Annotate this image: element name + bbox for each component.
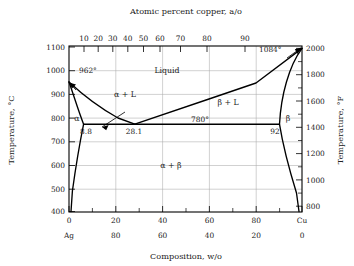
bottom-cu-tick-40: 40 [158,216,168,225]
phase-diagram-figure: Atomic percent copper, a/o Composition, … [0,0,354,266]
top-tick-70: 70 [176,34,186,43]
label-alpha-max-composition: 8.8 [80,127,92,136]
left-tick-700: 700 [51,137,65,146]
label-beta-max-composition: 92 [270,127,279,136]
left-tick-900: 900 [51,90,65,99]
bottom-cu-tick-60: 60 [205,216,215,225]
left-axis-title: Temperature, °C [6,95,16,164]
label-eutectic-composition: 28.1 [126,127,142,136]
bottom-ag-tick-20: 20 [251,231,261,240]
left-tick-1100: 1100 [46,43,65,52]
right-tick-1000: 1000 [306,176,325,185]
top-tick-10: 10 [79,34,89,43]
top-tick-50: 50 [139,34,149,43]
left-tick-500: 500 [51,185,65,194]
bottom-cu-tick-cu: Cu [297,216,308,225]
right-tick-1400: 1400 [306,123,325,132]
right-tick-1600: 1600 [306,97,325,106]
top-tick-80: 80 [202,34,212,43]
left-tick-600: 600 [51,161,65,170]
right-tick-1800: 1800 [306,70,325,79]
top-tick-60: 60 [155,34,165,43]
region-label-beta: β [286,114,291,123]
right-tick-1200: 1200 [306,149,325,158]
left-tick-400: 400 [51,207,65,216]
right-axis-title: Temperature, °F [335,95,345,164]
left-tick-800: 800 [51,114,65,123]
region-label-liquid: Liquid [154,66,179,75]
bottom-ag-tick-80: 80 [111,231,121,240]
label-silver-melting-point: 962° [79,66,97,75]
top-tick-30: 30 [108,34,118,43]
label-eutectic-temperature: 780° [191,115,209,124]
bottom-axis-title: Composition, w/o [150,251,222,261]
phase-diagram-svg: Atomic percent copper, a/o Composition, … [0,0,354,266]
bottom-cu-tick-20: 20 [111,216,121,225]
region-label-beta-plus-liquid: β + L [217,98,238,107]
bottom-ag-tick-40: 40 [205,231,215,240]
bottom-cu-tick-0: 0 [67,216,72,225]
top-tick-90: 90 [240,34,250,43]
bottom-ag-tick-60: 60 [158,231,168,240]
right-tick-2000: 2000 [306,44,325,53]
bottom-ag-tick-ag: Ag [63,231,74,240]
top-tick-40: 40 [123,34,133,43]
region-label-alpha-plus-liquid: α + L [114,90,136,99]
right-tick-800: 800 [306,202,320,211]
region-label-alpha: α [74,114,80,123]
label-copper-melting-point: 1084° [259,45,282,54]
top-tick-20: 20 [93,34,103,43]
bottom-cu-tick-80: 80 [251,216,261,225]
top-axis-title: Atomic percent copper, a/o [129,6,242,16]
bottom-ag-tick-0: 0 [300,231,305,240]
left-tick-1000: 1000 [46,66,65,75]
region-label-alpha-plus-beta: α + β [160,161,182,170]
